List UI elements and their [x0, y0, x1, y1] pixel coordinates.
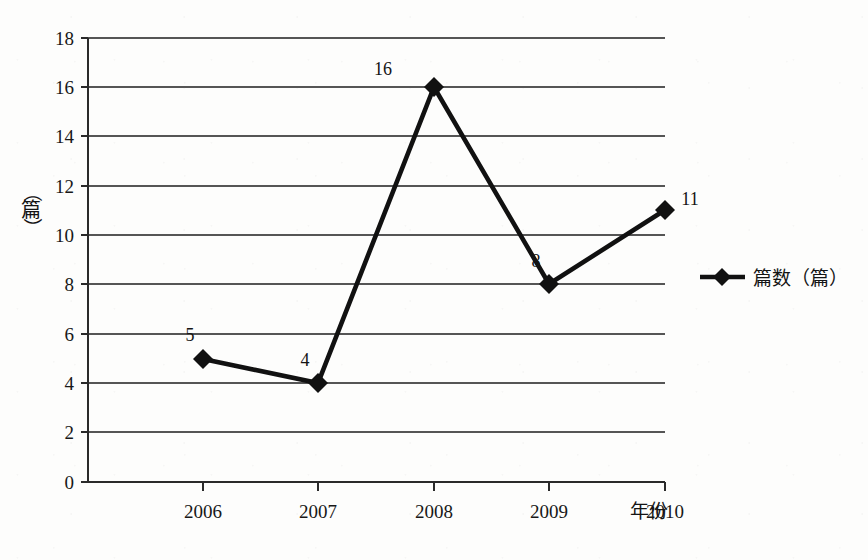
data-label-2010: 11 [681, 189, 698, 209]
x-axis-ticks [203, 482, 665, 491]
y-tick-label-4: 4 [65, 373, 75, 394]
x-tick-labels: 2006 2007 2008 2009 2010 [184, 501, 684, 522]
y-tick-label-14: 14 [55, 126, 75, 147]
data-label-2008: 16 [374, 59, 392, 79]
y-tick-label-0: 0 [65, 472, 75, 493]
x-tick-label-2006: 2006 [184, 501, 222, 522]
data-marker-2008[interactable] [424, 77, 444, 97]
y-axis-title-close-paren: ） [25, 211, 38, 245]
y-tick-label-8: 8 [65, 274, 75, 295]
y-axis-title: （ 篇 ） [14, 186, 48, 234]
x-tick-label-2008: 2008 [415, 501, 453, 522]
line-chart: 18 16 14 12 10 8 6 4 2 0 2006 2007 2008 … [0, 0, 868, 560]
data-label-2007: 4 [301, 350, 310, 370]
x-tick-label-2007: 2007 [299, 501, 337, 522]
y-tick-label-18: 18 [55, 28, 74, 49]
y-tick-label-2: 2 [65, 422, 75, 443]
y-tick-label-10: 10 [55, 225, 74, 246]
y-tick-label-16: 16 [55, 77, 74, 98]
legend-label-series-1: 篇数（篇） [753, 263, 848, 290]
x-axis-title: 年份 [630, 500, 668, 522]
data-point-labels: 5 4 16 8 11 [186, 59, 699, 370]
data-label-2009: 8 [532, 251, 541, 271]
x-tick-label-2009: 2009 [530, 501, 568, 522]
y-axis-ticks [81, 38, 88, 482]
legend: 篇数（篇） [697, 263, 848, 290]
y-axis-title-open-paren: （ [25, 176, 38, 210]
data-label-2006: 5 [186, 325, 195, 345]
data-marker-2006[interactable] [193, 349, 213, 369]
data-marker-2007[interactable] [308, 373, 328, 393]
y-tick-label-12: 12 [55, 176, 74, 197]
y-tick-labels: 18 16 14 12 10 8 6 4 2 0 [55, 28, 75, 493]
y-tick-label-6: 6 [65, 324, 75, 345]
